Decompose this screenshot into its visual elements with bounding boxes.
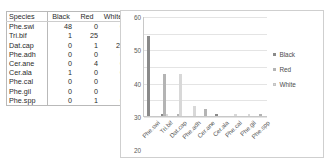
legend-swatch-icon <box>273 83 276 86</box>
legend-swatch-icon <box>273 53 276 56</box>
cell-black: 0 <box>48 50 75 59</box>
bar-group <box>158 17 172 116</box>
legend-label: Red <box>279 66 291 73</box>
chart-legend: BlackRedWhite <box>273 51 321 96</box>
chart-x-axis-labels: Phe.swiTri.bifDat.capPhe.adhCer.aneCer.a… <box>143 119 267 157</box>
table-row: Cer.ane040 <box>7 59 127 68</box>
legend-label: White <box>279 81 295 88</box>
cell-red: 1 <box>74 96 100 106</box>
cell-red: 0 <box>74 77 100 86</box>
cell-red: 0 <box>74 68 100 77</box>
cell-species: Cer.ala <box>7 68 48 77</box>
cell-species: Phe.adh <box>7 50 48 59</box>
bar-black <box>147 36 150 116</box>
bar-group <box>226 17 240 116</box>
bar-chart-panel: 0102030405060 Phe.swiTri.bifDat.capPhe.a… <box>120 10 324 158</box>
y-axis-tick-label: 60 <box>134 14 141 21</box>
table-row: Phe.spp010 <box>7 96 127 106</box>
cell-species: Cer.ane <box>7 59 48 68</box>
cell-species: Phe.gil <box>7 87 48 96</box>
species-data-table: Species Black Red White Phe.swi4800Tri.b… <box>6 11 116 106</box>
bar-red <box>163 74 166 116</box>
table-row: Phe.gil001 <box>7 87 127 96</box>
cell-red: 0 <box>74 22 100 32</box>
table-header: Species Black Red White <box>7 12 127 22</box>
bar-group <box>212 17 226 116</box>
column-header-species: Species <box>7 12 48 22</box>
cell-species: Phe.cal <box>7 77 48 86</box>
bar-group <box>171 17 185 116</box>
table-row: Tri.bif1251 <box>7 31 127 40</box>
bar-group <box>199 17 213 116</box>
table-body: Phe.swi4800Tri.bif1251Dat.cap0125Phe.adh… <box>7 22 127 106</box>
table-header-row: Species Black Red White <box>7 12 127 22</box>
cell-species: Dat.cap <box>7 41 48 50</box>
cell-black: 0 <box>48 59 75 68</box>
legend-item-white[interactable]: White <box>273 81 321 88</box>
table-row: Phe.cal001 <box>7 77 127 86</box>
cell-black: 1 <box>48 31 75 40</box>
legend-item-red[interactable]: Red <box>273 66 321 73</box>
table-row: Cer.ala100 <box>7 68 127 77</box>
table-row: Phe.adh006 <box>7 50 127 59</box>
bar-white <box>179 74 182 116</box>
bar-group <box>240 17 254 116</box>
bar-red <box>259 114 262 116</box>
cell-species: Phe.swi <box>7 22 48 32</box>
legend-swatch-icon <box>273 68 276 71</box>
chart-bars <box>144 17 267 116</box>
cell-black: 0 <box>48 41 75 50</box>
cell-red: 0 <box>74 50 100 59</box>
cell-black: 0 <box>48 87 75 96</box>
y-axis-tick-label: 40 <box>134 80 141 87</box>
table-grid: Species Black Red White Phe.swi4800Tri.b… <box>6 11 127 106</box>
cell-species: Tri.bif <box>7 31 48 40</box>
column-header-red: Red <box>74 12 100 22</box>
bar-red <box>204 109 207 116</box>
bar-white <box>234 114 237 116</box>
y-axis-tick-label: 30 <box>134 114 141 121</box>
y-axis-tick-label: 20 <box>134 147 141 154</box>
cell-red: 25 <box>74 31 100 40</box>
cell-black: 0 <box>48 96 75 106</box>
table-row: Dat.cap0125 <box>7 41 127 50</box>
bar-group <box>253 17 267 116</box>
bar-white <box>193 106 196 116</box>
bar-white <box>166 114 169 116</box>
bar-white <box>248 114 251 116</box>
cell-black: 1 <box>48 68 75 77</box>
cell-species: Phe.spp <box>7 96 48 106</box>
legend-item-black[interactable]: Black <box>273 51 321 58</box>
cell-red: 0 <box>74 87 100 96</box>
cell-red: 1 <box>74 41 100 50</box>
cell-red: 4 <box>74 59 100 68</box>
column-header-black: Black <box>48 12 75 22</box>
legend-label: Black <box>279 51 295 58</box>
bar-black <box>215 114 218 116</box>
gridline: 0 <box>144 117 267 118</box>
bar-group <box>144 17 158 116</box>
bar-group <box>185 17 199 116</box>
cell-black: 0 <box>48 77 75 86</box>
chart-plot-area: 0102030405060 <box>143 17 267 117</box>
y-axis-tick-label: 50 <box>134 47 141 54</box>
cell-black: 48 <box>48 22 75 32</box>
table-row: Phe.swi4800 <box>7 22 127 32</box>
